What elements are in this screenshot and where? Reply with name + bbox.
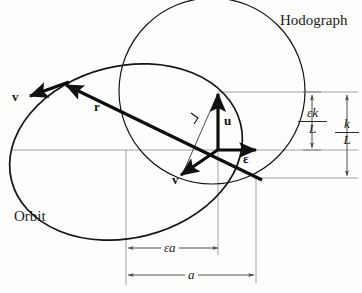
orbit-ellipse — [0, 40, 261, 264]
diagram-canvas — [0, 0, 362, 293]
k-numerator: k — [335, 117, 359, 131]
label-orbit: Orbit — [14, 209, 46, 224]
label-vector-u: u — [224, 114, 231, 127]
epsilon-k-denominator: L — [298, 122, 327, 136]
label-epsilon-a: εa — [161, 240, 179, 256]
label-vector-v-upper: v — [12, 90, 19, 103]
label-vector-r: r — [94, 100, 100, 113]
label-vector-v-lower: v — [172, 173, 179, 186]
orbit-hodograph-figure: Hodograph Orbit r u ε v v εk L k L εa a — [0, 0, 362, 293]
label-epsilon-k-over-L: εk L — [298, 106, 327, 136]
vector-v-lower — [181, 149, 219, 175]
label-hodograph: Hodograph — [280, 13, 348, 28]
label-vector-epsilon: ε — [243, 152, 249, 165]
label-semi-major-a: a — [185, 267, 198, 283]
right-angle-mark — [191, 113, 198, 124]
label-k-over-L: k L — [335, 117, 359, 147]
k-denominator: L — [335, 133, 359, 147]
epsilon-k-numerator: εk — [298, 106, 327, 120]
